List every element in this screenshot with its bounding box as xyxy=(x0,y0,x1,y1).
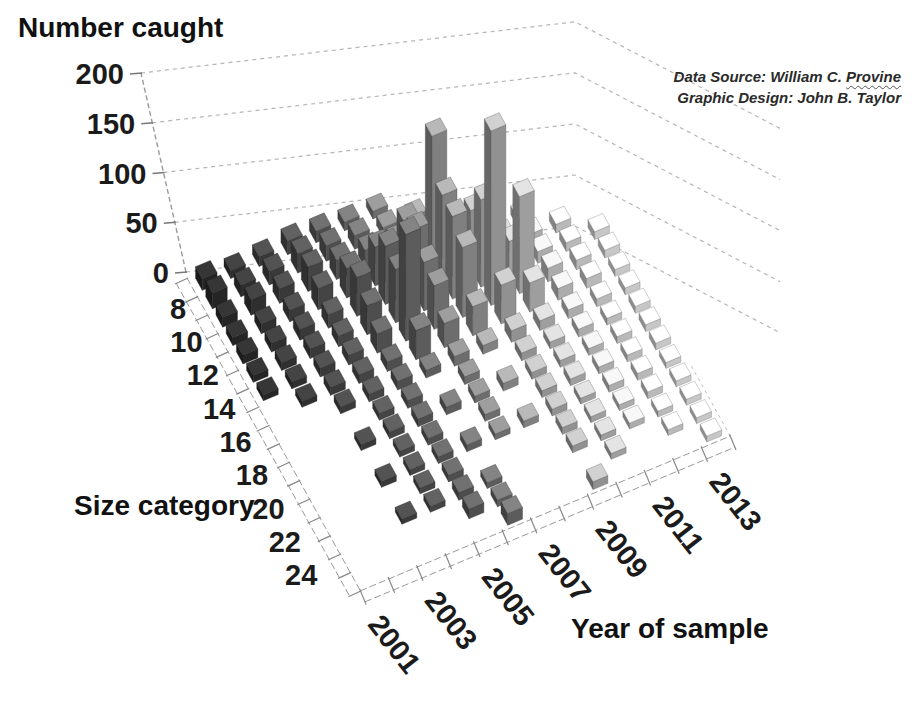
size-tick-label: 20 xyxy=(252,493,284,525)
bar-size14-year2001 xyxy=(257,377,279,401)
year-tick xyxy=(388,577,395,593)
size-tick-label: 12 xyxy=(187,359,219,391)
size-tick xyxy=(236,388,249,394)
size-tick xyxy=(206,333,219,339)
value-tick xyxy=(153,173,165,174)
year-tick xyxy=(360,589,367,605)
year-tick-label: 2001 xyxy=(362,609,427,680)
bar-size20-year2007 xyxy=(489,416,511,440)
year-tick xyxy=(701,446,708,462)
bar-size22-year2003 xyxy=(395,501,417,524)
bar-size23-year2010 xyxy=(605,435,627,459)
year-tick xyxy=(729,434,736,450)
value-axis-title: Number caught xyxy=(18,12,223,44)
bar-size21-year2004 xyxy=(414,470,436,494)
size-tick-label: 14 xyxy=(203,393,235,425)
bar-size18-year2003 xyxy=(354,426,376,450)
size-tick-label: 16 xyxy=(219,426,251,458)
bar-size20-year2003 xyxy=(375,463,397,487)
bar-size24-year2009 xyxy=(586,464,608,490)
value-tick xyxy=(175,272,187,273)
bar-size22-year2004 xyxy=(424,488,446,512)
bar-size20-year2006 xyxy=(460,427,482,452)
bar-size20-year2013 xyxy=(659,344,681,368)
bar-size22-year2010 xyxy=(594,417,616,441)
bar-size21-year2010 xyxy=(584,398,606,422)
size-tick xyxy=(257,425,270,431)
size-tick xyxy=(175,278,188,284)
size-tick xyxy=(246,407,259,413)
bar-size22-year2011 xyxy=(623,405,645,429)
size-tick-label: 24 xyxy=(285,559,317,591)
year-tick-label: 2009 xyxy=(589,514,654,585)
size-tick xyxy=(338,572,351,578)
bar-size21-year2013 xyxy=(670,363,692,387)
size-tick-label: 22 xyxy=(269,526,301,558)
credit-data-source: Data Source: William C. Provine xyxy=(674,66,901,87)
year-tick-label: 2013 xyxy=(703,466,768,537)
bar-size15-year2006 xyxy=(409,312,431,359)
year-tick xyxy=(673,458,680,474)
bar-size22-year2012 xyxy=(651,393,673,417)
bar-size24-year2013 xyxy=(700,418,722,442)
year-tick xyxy=(417,565,424,581)
credit-data-source-prefix: Data Source: William C. xyxy=(674,68,846,85)
year-axis-title: Year of sample xyxy=(571,613,769,645)
size-tick-label: 18 xyxy=(236,459,268,491)
size-tick xyxy=(348,591,361,597)
chart-figure: 0501001502008101214161820222420012003200… xyxy=(0,0,923,705)
size-tick xyxy=(216,352,229,358)
size-tick-label: 8 xyxy=(170,293,186,325)
year-tick-label: 2003 xyxy=(419,585,484,656)
size-tick xyxy=(195,315,208,321)
bar-size20-year2004 xyxy=(403,451,425,475)
size-axis-title: Size category xyxy=(74,490,255,522)
bar-face xyxy=(399,222,406,341)
size-tick xyxy=(287,480,300,486)
size-tick xyxy=(308,517,321,523)
value-tick xyxy=(141,123,153,124)
size-tick xyxy=(297,499,310,505)
size-tick xyxy=(328,554,341,560)
value-tick-label: 150 xyxy=(87,108,135,140)
bar-size15-year2002 xyxy=(295,383,317,407)
year-tick-label: 2007 xyxy=(533,537,598,608)
bar-face xyxy=(484,119,491,306)
size-tick xyxy=(318,536,331,542)
bar-size22-year2013 xyxy=(680,381,702,405)
bar-size21-year2011 xyxy=(613,386,635,410)
bar-size18-year2008 xyxy=(497,365,518,391)
bar-size19-year2004 xyxy=(393,433,415,457)
value-tick-label: 100 xyxy=(98,158,146,190)
value-tick-label: 200 xyxy=(76,58,124,90)
size-tick-label: 10 xyxy=(170,326,202,358)
bar-size15-year2008 xyxy=(466,288,488,335)
value-axis: 050100150200 xyxy=(76,58,187,289)
bar-size23-year2012 xyxy=(662,411,684,435)
year-tick-label: 2011 xyxy=(646,490,710,559)
bar-size23-year2013 xyxy=(690,399,712,423)
size-tick xyxy=(226,370,239,376)
bar-size15-year2010 xyxy=(523,265,545,312)
credit-graphic-design: Graphic Design: John B. Taylor xyxy=(674,87,901,108)
bars xyxy=(196,113,722,526)
value-tick-label: 0 xyxy=(153,257,169,289)
bar-size20-year2010 xyxy=(574,380,596,404)
credits: Data Source: William C. Provine Graphic … xyxy=(674,66,901,108)
size-tick xyxy=(267,444,280,450)
credit-data-source-name: Provine xyxy=(846,68,901,85)
size-tick xyxy=(185,296,198,302)
year-tick-label: 2005 xyxy=(476,561,541,632)
bar-face xyxy=(456,236,463,318)
value-tick xyxy=(130,73,142,74)
bar-size18-year2006 xyxy=(440,389,462,415)
size-tick xyxy=(277,462,290,468)
value-tick xyxy=(164,222,176,223)
value-tick-label: 50 xyxy=(125,207,157,239)
bar-size20-year2008 xyxy=(517,403,539,428)
